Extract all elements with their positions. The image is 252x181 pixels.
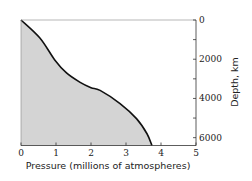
y-tick-label: 0	[199, 15, 205, 25]
x-tick-label: 2	[88, 148, 94, 158]
x-tick-label: 4	[158, 148, 164, 158]
y-axis-title: Depth, km	[229, 57, 240, 107]
x-tick-label: 5	[193, 148, 199, 158]
y-tick-label: 4000	[199, 93, 222, 103]
x-tick-label: 0	[18, 148, 24, 158]
x-axis-title: Pressure (millions of atmospheres)	[26, 160, 191, 171]
pressure-depth-chart: 0123450200040006000 Pressure (millions o…	[0, 0, 252, 181]
y-tick-label: 6000	[199, 133, 222, 143]
y-tick-label: 2000	[199, 54, 222, 64]
plot-area	[21, 20, 152, 146]
x-tick-label: 3	[123, 148, 129, 158]
x-tick-label: 1	[53, 148, 59, 158]
